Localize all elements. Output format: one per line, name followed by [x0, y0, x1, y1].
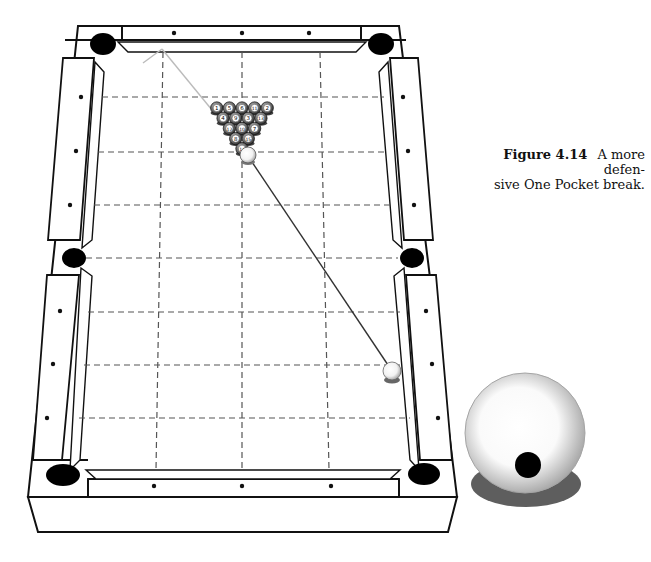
pocket-bottom-left	[46, 464, 80, 486]
diamond-icon	[240, 484, 244, 488]
ball-number: 10	[239, 127, 245, 132]
diamond-icon	[307, 31, 311, 35]
diamond-icon	[412, 203, 416, 207]
diamond-icon	[68, 203, 72, 207]
diamond-icon	[79, 95, 83, 99]
contact-point-icon	[515, 452, 541, 478]
diamond-icon	[424, 309, 428, 313]
cue-ball-contact	[240, 147, 256, 165]
diamond-icon	[401, 95, 405, 99]
caption-line-1: A more defen-	[597, 147, 645, 177]
ball-number: 15	[245, 137, 251, 142]
ball-number: 7	[253, 126, 257, 132]
cue-ball-detail	[465, 373, 585, 507]
ball-number: 3	[247, 115, 251, 121]
diamond-icon	[240, 31, 244, 35]
ball-number: 13	[258, 116, 264, 121]
pocket-right-side	[400, 248, 424, 268]
ball-number: 4	[221, 115, 225, 121]
diamond-icon	[51, 362, 55, 366]
figure-label: Figure 4.14	[503, 147, 587, 162]
ball-number: 5	[228, 105, 232, 111]
ball-number: 12	[227, 127, 233, 132]
figure-caption: Figure 4.14 A more defen- sive One Pocke…	[470, 147, 645, 192]
diamond-icon	[58, 309, 62, 313]
diamond-icon	[436, 416, 440, 420]
diamond-icon	[329, 484, 333, 488]
diamond-icon	[45, 416, 49, 420]
pocket-top-right	[368, 33, 394, 55]
cushion-bottom	[86, 470, 400, 479]
rail-bottom	[88, 479, 399, 497]
diamond-icon	[172, 31, 176, 35]
ball-number: 8	[234, 136, 238, 142]
cue-ball-at-rack	[240, 147, 256, 163]
diamond-icon	[74, 149, 78, 153]
pocket-top-left	[90, 33, 116, 55]
table-apron	[28, 497, 457, 532]
pool-table-diagram: 156112493131210781514	[0, 0, 651, 562]
ball-number: 9	[234, 115, 238, 121]
cue-ball-start	[383, 362, 401, 384]
ball-number: 11	[252, 106, 258, 111]
pocket-bottom-right	[408, 463, 440, 485]
ball-number: 1	[215, 105, 219, 111]
pocket-left-side	[62, 248, 86, 268]
diamond-icon	[152, 484, 156, 488]
diamond-icon	[430, 362, 434, 366]
diamond-icon	[406, 149, 410, 153]
caption-line-2: sive One Pocket break.	[470, 177, 645, 192]
ball-number: 2	[265, 105, 269, 111]
cue-ball	[383, 362, 401, 380]
ball-number: 6	[240, 105, 244, 111]
cushion-top	[118, 42, 366, 52]
